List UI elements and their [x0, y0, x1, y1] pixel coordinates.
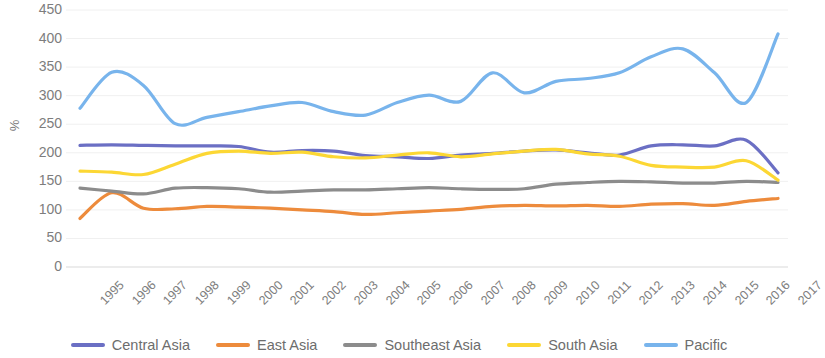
plot-area [66, 0, 788, 270]
series-line [80, 193, 778, 219]
legend-item[interactable]: East Asia [216, 337, 317, 353]
x-axis-tick: 2014 [700, 278, 730, 308]
y-axis-tick: 0 [16, 259, 62, 273]
x-axis-tick: 2005 [414, 278, 444, 308]
x-axis: 1995199619971998199920002001200220032004… [0, 272, 798, 327]
y-axis-tick: 300 [16, 88, 62, 102]
x-axis-tick: 2010 [573, 278, 603, 308]
legend-item[interactable]: Central Asia [71, 337, 190, 353]
y-axis-tick: 50 [16, 230, 62, 244]
x-axis-tick: 2000 [256, 278, 286, 308]
x-axis-tick: 2008 [510, 278, 540, 308]
y-axis-tick: 450 [16, 2, 62, 16]
x-axis-tick: 2002 [319, 278, 349, 308]
y-axis-tick: 350 [16, 59, 62, 73]
y-axis-tick: 250 [16, 116, 62, 130]
legend-color-swatch [343, 343, 377, 347]
chart-canvas [66, 0, 788, 270]
x-axis-tick: 2009 [541, 278, 571, 308]
x-axis-tick: 2003 [351, 278, 381, 308]
x-axis-tick: 2015 [732, 278, 762, 308]
x-axis-tick: 1999 [224, 278, 254, 308]
series-line [80, 34, 778, 125]
legend-color-swatch [507, 343, 541, 347]
legend-item[interactable]: Pacific [644, 337, 728, 353]
legend-color-swatch [216, 343, 250, 347]
x-axis-tick: 2017 [795, 278, 825, 308]
x-axis-tick: 2006 [446, 278, 476, 308]
legend-label: Southeast Asia [384, 337, 481, 353]
legend-color-swatch [644, 343, 678, 347]
x-axis-tick: 1995 [97, 278, 127, 308]
legend-item[interactable]: South Asia [507, 337, 617, 353]
x-axis-tick: 1997 [161, 278, 191, 308]
x-axis-tick: 1996 [129, 278, 159, 308]
chart-legend: Central AsiaEast AsiaSoutheast AsiaSouth… [0, 332, 798, 358]
legend-label: East Asia [257, 337, 317, 353]
legend-label: Central Asia [112, 337, 190, 353]
x-axis-tick: 2011 [605, 278, 634, 307]
series-line [80, 181, 778, 194]
x-axis-tick: 2004 [383, 278, 413, 308]
legend-item[interactable]: Southeast Asia [343, 337, 481, 353]
y-axis-tick: 100 [16, 202, 62, 216]
x-axis-tick: 2013 [668, 278, 698, 308]
y-axis-tick: 200 [16, 145, 62, 159]
x-axis-tick: 2007 [478, 278, 508, 308]
y-axis-tick: 400 [16, 31, 62, 45]
x-axis-tick: 1998 [192, 278, 222, 308]
x-axis-tick: 2016 [763, 278, 793, 308]
series-line [80, 149, 778, 180]
x-axis-tick: 2001 [288, 278, 318, 308]
legend-label: South Asia [548, 337, 617, 353]
legend-color-swatch [71, 343, 105, 347]
y-axis-tick: 150 [16, 173, 62, 187]
x-axis-tick: 2012 [637, 278, 667, 308]
y-axis: 450400350300250200150100500 [10, 0, 62, 280]
legend-label: Pacific [685, 337, 728, 353]
